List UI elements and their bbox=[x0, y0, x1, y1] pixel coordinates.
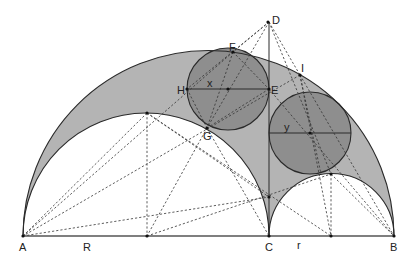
label-F: F bbox=[229, 41, 236, 53]
label-H: H bbox=[177, 84, 185, 96]
label-r: r bbox=[297, 239, 301, 251]
label-G: G bbox=[203, 130, 212, 142]
label-I: I bbox=[301, 62, 304, 74]
label-x: x bbox=[207, 77, 213, 89]
label-R: R bbox=[83, 241, 91, 253]
label-E: E bbox=[271, 84, 278, 96]
geometry-diagram: A R C r B D F I H E G x y bbox=[0, 0, 416, 260]
label-C: C bbox=[265, 241, 273, 253]
label-y: y bbox=[284, 121, 290, 133]
label-B: B bbox=[390, 241, 397, 253]
label-A: A bbox=[19, 241, 27, 253]
label-D: D bbox=[272, 14, 280, 26]
